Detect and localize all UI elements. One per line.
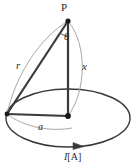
cone-arc-right (68, 21, 82, 116)
radius-line-a (7, 114, 68, 116)
distance-r-label: r (16, 60, 20, 71)
loop-center-marker (65, 113, 71, 119)
point-p-marker (65, 18, 70, 23)
radius-a-label: a (38, 122, 43, 132)
current-unit: [A] (67, 151, 81, 162)
current-direction-arrowhead (73, 143, 84, 150)
loop-edge-marker (5, 112, 10, 117)
current-label: I[A] (64, 152, 81, 162)
figure-drawing (0, 0, 138, 167)
distance-x-label: x (82, 61, 87, 72)
angle-theta-label: θ (64, 32, 69, 42)
point-p-label: P (61, 2, 67, 13)
current-loop-figure: P θ r x a I[A] (0, 0, 138, 167)
